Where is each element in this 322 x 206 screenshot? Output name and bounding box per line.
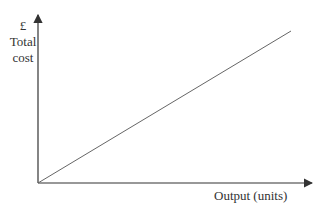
y-axis-label-line-1: £	[5, 18, 41, 34]
total-cost-line	[38, 31, 291, 183]
total-cost-chart	[0, 0, 322, 206]
y-axis-label-line-3: cost	[5, 50, 41, 66]
y-axis-label: £ Total cost	[5, 18, 41, 66]
x-axis-label: Output (units)	[214, 188, 287, 204]
y-axis-label-line-2: Total	[5, 34, 41, 50]
